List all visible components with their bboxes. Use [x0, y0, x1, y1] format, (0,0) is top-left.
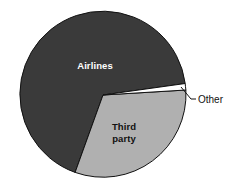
slice-label-third-party-line2: party [112, 133, 136, 144]
pie-chart-canvas: Airlines Third party Other [0, 0, 235, 191]
slice-label-airlines: Airlines [77, 60, 113, 71]
slice-label-other: Other [198, 94, 224, 105]
slice-label-third-party-line1: Third [112, 121, 136, 132]
pie-chart: Airlines Third party Other [0, 0, 235, 191]
